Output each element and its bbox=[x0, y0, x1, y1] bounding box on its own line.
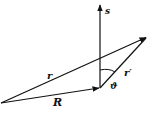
vector-diagram: s r r′ ϑ R bbox=[0, 0, 149, 114]
angle-arc bbox=[100, 69, 115, 72]
vector-R bbox=[1, 88, 99, 103]
label-s: s bbox=[105, 6, 110, 16]
vector-r-prime bbox=[100, 38, 146, 88]
label-theta: ϑ bbox=[110, 81, 118, 91]
diagram-canvas: s r r′ ϑ R bbox=[0, 0, 149, 114]
label-r: r bbox=[47, 70, 53, 81]
label-r-prime: r′ bbox=[124, 67, 132, 78]
label-R: R bbox=[52, 96, 62, 109]
